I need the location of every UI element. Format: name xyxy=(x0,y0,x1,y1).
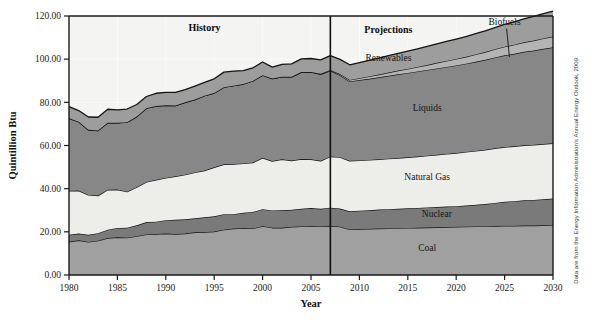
x-tick-label: 2020 xyxy=(447,283,466,293)
x-tick-label: 2030 xyxy=(544,283,563,293)
projections-label: Projections xyxy=(364,24,412,35)
y-tick-label: 80.00 xyxy=(40,98,62,108)
band-label-renewables: Renewables xyxy=(365,53,411,63)
history-label: History xyxy=(188,22,220,33)
biofuels-callout-label: Biofuels xyxy=(488,17,520,27)
x-tick-label: 2010 xyxy=(350,283,369,293)
x-tick-label: 2025 xyxy=(495,283,514,293)
x-tick-label: 2015 xyxy=(398,283,417,293)
band-label-natural-gas: Natural Gas xyxy=(404,172,450,182)
x-axis-title: Year xyxy=(301,298,322,309)
y-tick-label: 0.00 xyxy=(44,270,61,280)
y-tick-label: 40.00 xyxy=(40,184,62,194)
y-tick-label: 120.00 xyxy=(35,11,61,21)
x-tick-label: 2005 xyxy=(302,283,321,293)
energy-consumption-area-chart: 0.0020.0040.0060.0080.00100.00120.001980… xyxy=(0,0,600,323)
y-tick-label: 100.00 xyxy=(35,54,61,64)
band-label-nuclear: Nuclear xyxy=(422,209,453,219)
x-tick-label: 2000 xyxy=(253,283,272,293)
band-label-liquids: Liquids xyxy=(413,103,442,113)
x-tick-label: 1990 xyxy=(156,283,175,293)
y-axis-title: Quintillion Btu xyxy=(7,111,18,179)
x-tick-label: 1985 xyxy=(108,283,127,293)
y-tick-label: 60.00 xyxy=(40,141,62,151)
y-tick-label: 20.00 xyxy=(40,227,62,237)
band-label-coal: Coal xyxy=(418,243,436,253)
source-credit: Data are from the Energy Information Adm… xyxy=(572,56,579,284)
x-tick-label: 1980 xyxy=(60,283,79,293)
x-tick-label: 1995 xyxy=(205,283,224,293)
